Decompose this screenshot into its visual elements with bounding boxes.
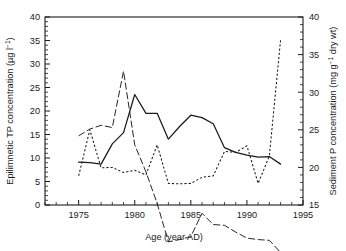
y2-tick-label: 40 (309, 12, 319, 22)
y2-tick-label: 30 (309, 88, 319, 98)
axis-tick-labels: 1975198019851990199505101520253035401520… (30, 12, 319, 220)
svg-text:Epilimnetic TP concentration (: Epilimnetic TP concentration (µg l−1) (4, 37, 15, 184)
y2-tick-label: 35 (309, 50, 319, 60)
y2-tick-label: 20 (309, 163, 319, 173)
x-tick-label: 1975 (68, 210, 88, 220)
x-axis-title: Age (year AD) (145, 232, 203, 242)
y-tick-label: 30 (30, 59, 40, 69)
series-line-2 (79, 71, 281, 251)
series-line-3 (79, 40, 281, 184)
y-tick-label: 25 (30, 83, 40, 93)
y-tick-label: 0 (35, 200, 40, 210)
y-tick-label: 35 (30, 36, 40, 46)
y-tick-label: 20 (30, 106, 40, 116)
y-axis-title: Epilimnetic TP concentration (µg l−1) (4, 37, 15, 184)
x-tick-label: 1985 (181, 210, 201, 220)
y-tick-label: 10 (30, 153, 40, 163)
y2-axis-title: Sediment P concentration (mg g−1 dry wt) (327, 27, 338, 196)
x-tick-label: 1995 (293, 210, 313, 220)
y-tick-label: 15 (30, 130, 40, 140)
plot-frame (45, 17, 303, 205)
chart-figure: 1975198019851990199505101520253035401520… (0, 0, 346, 251)
x-tick-label: 1980 (125, 210, 145, 220)
axis-ticks (45, 17, 303, 205)
y-tick-label: 5 (35, 177, 40, 187)
series-line-1 (79, 95, 281, 165)
x-tick-label: 1990 (237, 210, 257, 220)
y2-tick-label: 25 (309, 125, 319, 135)
y2-tick-label: 15 (309, 200, 319, 210)
y-tick-label: 40 (30, 12, 40, 22)
svg-text:Sediment P concentration (mg g: Sediment P concentration (mg g−1 dry wt) (327, 27, 338, 196)
line-chart: 1975198019851990199505101520253035401520… (0, 0, 346, 251)
